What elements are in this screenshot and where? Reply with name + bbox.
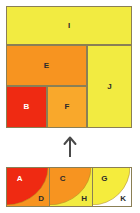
quarter-cell-a: AD <box>6 167 50 207</box>
dissection-cell-b: B <box>6 86 47 128</box>
dissection-figure: IEJBF ADCHGK <box>0 0 140 213</box>
top-dissection-diagram: IEJBF <box>6 6 132 128</box>
dissection-cell-label: F <box>65 103 70 111</box>
dissection-cell-e: E <box>6 45 87 86</box>
quarter-disc-shape <box>92 167 130 205</box>
up-arrow-icon <box>62 134 78 158</box>
quarter-disc-shape <box>49 167 91 205</box>
dissection-cell-j: J <box>87 45 132 128</box>
bottom-quarter-circle-row: ADCHGK <box>6 167 132 207</box>
arrow-block <box>0 132 140 160</box>
quarter-cell-c: CH <box>49 167 93 207</box>
dissection-cell-label: I <box>68 22 70 30</box>
quarter-cell-g: GK <box>92 167 132 207</box>
dissection-cell-f: F <box>47 86 87 128</box>
quarter-disc-shape <box>6 167 48 205</box>
dissection-cell-label: B <box>24 103 30 111</box>
dissection-cell-i: I <box>6 6 132 45</box>
dissection-cell-label: J <box>107 83 111 91</box>
dissection-cell-label: E <box>44 62 49 70</box>
